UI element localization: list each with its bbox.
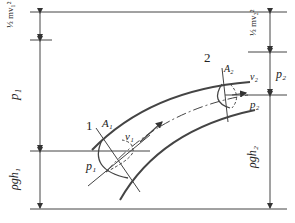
area-1-label: A₁ bbox=[101, 117, 113, 129]
pipe-lower-wall bbox=[120, 110, 255, 200]
left-kinetic-label: ½ mv₁² bbox=[5, 1, 15, 28]
right-pressure-label: p₂ bbox=[275, 67, 286, 81]
section-2-label: 2 bbox=[204, 50, 211, 65]
bernoulli-diagram: ½ mv₁² p₁ ρgh₁ ½ mv₂² p₂ ρgh₂ 1 2 A₁ A₂ … bbox=[0, 0, 295, 223]
diagram-canvas: ½ mv₁² p₁ ρgh₁ ½ mv₂² p₂ ρgh₂ 1 2 A₁ A₂ … bbox=[0, 0, 295, 223]
right-kinetic-label: ½ mv₂² bbox=[248, 9, 258, 36]
pressure-1-label: p₁ bbox=[85, 159, 96, 173]
velocity-1-label: v₁ bbox=[125, 130, 134, 142]
left-potential-label: ρgh₁ bbox=[7, 168, 21, 191]
right-potential-label: ρgh₂ bbox=[245, 146, 259, 169]
left-pressure-label: p₁ bbox=[6, 89, 21, 101]
svg-text:½ mv₁²: ½ mv₁² bbox=[5, 1, 15, 28]
section-1-label: 1 bbox=[86, 118, 93, 133]
area-2-label: A₂ bbox=[223, 63, 234, 74]
velocity-2-label: v₂ bbox=[250, 71, 258, 82]
pipe-upper-wall bbox=[92, 82, 250, 150]
pressure-2-label: p₂ bbox=[249, 98, 260, 110]
